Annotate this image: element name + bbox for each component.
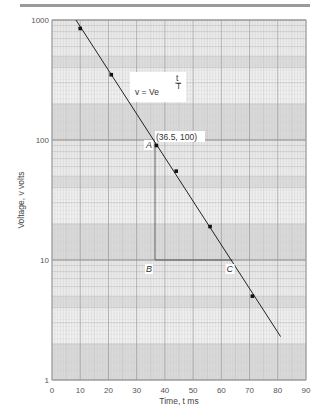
chart: 0102030405060708090 1101001000 Time, t m… <box>0 0 323 418</box>
x-tick-label: 0 <box>50 386 55 395</box>
formula-exponent-denominator: T <box>176 81 181 91</box>
point-label-C: C <box>227 264 234 274</box>
formula-text: v = Ve <box>135 87 159 97</box>
coord-label-A: (36.5, 100) <box>156 132 197 142</box>
y-tick-labels: 1101001000 <box>31 16 49 385</box>
point-label-B: B <box>146 264 152 274</box>
coord-label-group: (36.5, 100) <box>155 131 205 142</box>
data-point <box>208 225 212 229</box>
formula-box: v = Ve t T <box>130 72 186 102</box>
x-tick-label: 30 <box>132 386 141 395</box>
x-tick-label: 60 <box>217 386 226 395</box>
y-axis-label: Voltage, v volts <box>16 171 26 228</box>
x-tick-label: 20 <box>104 386 113 395</box>
x-tick-label: 50 <box>189 386 198 395</box>
x-tick-label: 70 <box>245 386 254 395</box>
y-tick-label: 1 <box>45 376 50 385</box>
data-point <box>174 169 178 173</box>
x-tick-label: 40 <box>160 386 169 395</box>
data-point <box>78 27 82 31</box>
data-point <box>109 73 113 77</box>
x-tick-labels: 0102030405060708090 <box>50 386 311 395</box>
y-tick-label: 10 <box>40 256 49 265</box>
x-tick-label: 10 <box>76 386 85 395</box>
x-axis-label: Time, t ms <box>159 396 198 406</box>
point-label-A: A <box>145 140 152 150</box>
y-tick-label: 100 <box>36 136 50 145</box>
x-tick-label: 90 <box>302 386 311 395</box>
y-tick-label: 1000 <box>31 16 49 25</box>
data-point <box>251 294 255 298</box>
data-point <box>155 144 159 148</box>
x-tick-label: 80 <box>273 386 282 395</box>
